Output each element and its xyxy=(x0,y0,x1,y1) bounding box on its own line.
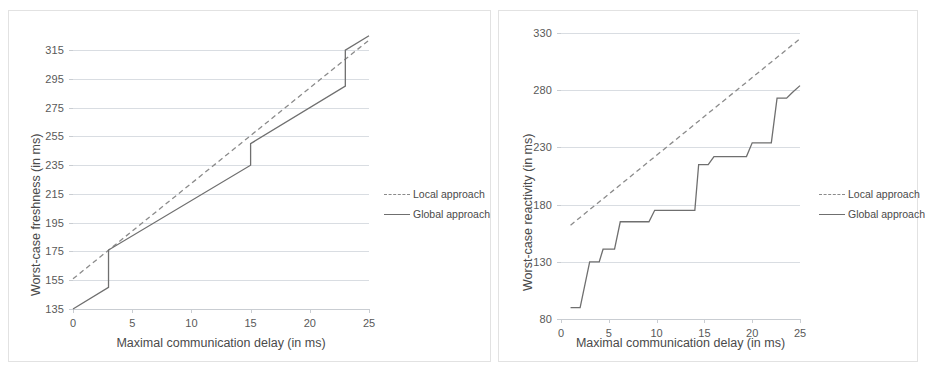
legend-reactivity: Local approach Global approach xyxy=(819,184,925,224)
solid-line-icon xyxy=(384,214,410,215)
chart-freshness: Worst-case freshness (in ms) 13515517519… xyxy=(9,11,490,361)
y-axis-tick-label: 80 xyxy=(540,313,552,325)
y-axis-tick-label: 295 xyxy=(45,73,64,85)
x-axis-tick-label: 15 xyxy=(244,317,256,329)
x-axis-tick xyxy=(369,309,370,313)
x-axis-title-freshness: Maximal communication delay (in ms) xyxy=(73,336,369,350)
series-line-local-approach xyxy=(73,40,369,279)
y-axis-tick-label: 275 xyxy=(45,102,64,114)
y-axis-tick-label: 175 xyxy=(45,245,64,257)
x-axis-tick xyxy=(132,309,133,313)
x-axis-tick xyxy=(73,309,74,313)
x-axis-line xyxy=(73,309,369,310)
x-axis-tick xyxy=(561,319,562,323)
x-axis-tick xyxy=(657,319,658,323)
x-axis-tick-label: 25 xyxy=(363,317,375,329)
x-axis-tick xyxy=(752,319,753,323)
legend-item-local: Local approach xyxy=(384,184,490,204)
series-line-global-approach xyxy=(73,36,369,309)
plot-area-freshness: 1351551751952152352552752953150510152025 xyxy=(73,43,369,309)
y-axis-tick-label: 315 xyxy=(45,44,64,56)
y-axis-tick-label: 180 xyxy=(533,199,552,211)
legend-label-global: Global approach xyxy=(413,208,490,220)
x-axis-title-reactivity: Maximal communication delay (in ms) xyxy=(539,336,822,350)
y-axis-tick-label: 135 xyxy=(45,303,64,315)
dashed-line-icon xyxy=(384,194,410,195)
y-axis-tick-label: 155 xyxy=(45,274,64,286)
series-line-local-approach xyxy=(571,39,800,225)
y-axis-tick-label: 215 xyxy=(45,188,64,200)
legend-item-local: Local approach xyxy=(819,184,925,204)
plot-area-reactivity: 801301802302803300510152025 xyxy=(561,33,800,319)
legend-item-global: Global approach xyxy=(384,204,490,224)
figure-root: Worst-case freshness (in ms) 13515517519… xyxy=(0,0,925,377)
x-axis-line xyxy=(561,319,800,320)
y-axis-title-freshness: Worst-case freshness (in ms) xyxy=(29,134,43,296)
chart-panel-reactivity: Worst-case reactivity (in ms) 8013018023… xyxy=(498,10,918,362)
x-axis-tick xyxy=(704,319,705,323)
x-axis-tick-label: 20 xyxy=(304,317,316,329)
x-axis-tick xyxy=(251,309,252,313)
legend-freshness: Local approach Global approach xyxy=(384,184,490,224)
y-axis-tick-label: 195 xyxy=(45,217,64,229)
legend-label-local: Local approach xyxy=(413,188,485,200)
x-axis-tick xyxy=(310,309,311,313)
chart-reactivity: Worst-case reactivity (in ms) 8013018023… xyxy=(499,11,917,361)
x-axis-tick-label: 5 xyxy=(129,317,135,329)
y-axis-tick-label: 130 xyxy=(533,256,552,268)
legend-label-local: Local approach xyxy=(848,188,920,200)
legend-item-global: Global approach xyxy=(819,204,925,224)
legend-label-global: Global approach xyxy=(848,208,925,220)
series-layer xyxy=(561,33,800,319)
chart-panel-freshness: Worst-case freshness (in ms) 13515517519… xyxy=(8,10,491,362)
y-axis-tick-label: 280 xyxy=(533,84,552,96)
y-axis-tick-label: 235 xyxy=(45,159,64,171)
y-axis-tick-label: 330 xyxy=(533,27,552,39)
x-axis-tick xyxy=(191,309,192,313)
x-axis-tick xyxy=(609,319,610,323)
y-axis-tick-label: 230 xyxy=(533,141,552,153)
x-axis-tick xyxy=(800,319,801,323)
series-layer xyxy=(73,43,369,309)
x-axis-tick-label: 0 xyxy=(70,317,76,329)
y-axis-tick-label: 255 xyxy=(45,130,64,142)
solid-line-icon xyxy=(819,214,845,215)
dashed-line-icon xyxy=(819,194,845,195)
x-axis-tick-label: 10 xyxy=(185,317,197,329)
